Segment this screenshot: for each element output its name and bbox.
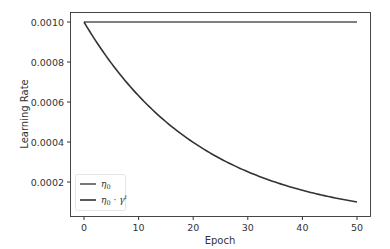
svg-text:40: 40 — [296, 222, 308, 233]
svg-text:0.0004: 0.0004 — [31, 137, 64, 148]
y-axis-label: Learning Rate — [19, 79, 30, 149]
y-tick: 0.0008 — [31, 57, 71, 68]
svg-text:0.0008: 0.0008 — [31, 57, 64, 68]
svg-text:0.0006: 0.0006 — [31, 97, 64, 108]
x-tick: 50 — [351, 217, 363, 234]
x-tick: 30 — [242, 217, 254, 234]
svg-text:50: 50 — [351, 222, 363, 233]
legend: η0 η0 · γt — [76, 175, 128, 211]
svg-text:0: 0 — [81, 222, 87, 233]
y-axis: 0.0010 0.0008 0.0006 0.0004 0.0002 Learn… — [19, 17, 71, 188]
x-tick: 0 — [81, 217, 87, 234]
y-tick: 0.0002 — [31, 177, 71, 188]
svg-text:η0 · γt: η0 · γt — [101, 193, 128, 207]
x-axis: 0 10 20 30 40 50 Epoch — [81, 217, 363, 247]
x-tick: 40 — [296, 217, 308, 234]
x-tick: 10 — [133, 217, 145, 234]
svg-text:0.0002: 0.0002 — [31, 177, 64, 188]
y-tick: 0.0006 — [31, 97, 71, 108]
x-tick: 20 — [187, 217, 199, 234]
y-tick: 0.0004 — [31, 137, 71, 148]
svg-text:10: 10 — [133, 222, 145, 233]
y-tick: 0.0010 — [31, 17, 71, 28]
x-axis-label: Epoch — [205, 235, 236, 246]
svg-text:30: 30 — [242, 222, 254, 233]
learning-rate-chart: 0.0010 0.0008 0.0006 0.0004 0.0002 Learn… — [0, 0, 390, 249]
svg-text:20: 20 — [187, 222, 199, 233]
svg-text:0.0010: 0.0010 — [31, 17, 64, 28]
